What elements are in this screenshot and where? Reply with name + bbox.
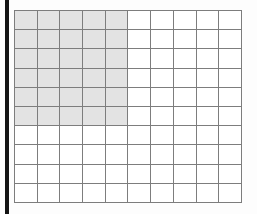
grid-cell-shaded[interactable] [105,49,128,68]
grid-cell-empty[interactable] [173,11,196,30]
grid-cell-shaded[interactable] [37,87,60,106]
grid-cell-shaded[interactable] [60,49,83,68]
grid-cell-empty[interactable] [83,145,106,164]
grid-cell-shaded[interactable] [60,106,83,125]
grid-cell-empty[interactable] [128,87,151,106]
grid-cell-empty[interactable] [60,145,83,164]
grid-cell-empty[interactable] [83,183,106,202]
grid-cell-shaded[interactable] [60,68,83,87]
grid-cell-empty[interactable] [128,183,151,202]
grid-cell-empty[interactable] [151,30,174,49]
grid-cell-empty[interactable] [219,11,242,30]
grid-cell-empty[interactable] [83,126,106,145]
grid-cell-empty[interactable] [173,49,196,68]
grid-cell-empty[interactable] [105,145,128,164]
grid-cell-empty[interactable] [196,87,219,106]
grid-cell-empty[interactable] [15,126,38,145]
grid-cell-shaded[interactable] [83,68,106,87]
grid-cell-empty[interactable] [151,87,174,106]
grid-cell-shaded[interactable] [37,49,60,68]
grid-cell-empty[interactable] [151,68,174,87]
grid-cell-empty[interactable] [173,30,196,49]
grid-cell-shaded[interactable] [105,106,128,125]
grid-cell-shaded[interactable] [60,11,83,30]
grid-cell-empty[interactable] [196,164,219,183]
grid-cell-empty[interactable] [196,106,219,125]
grid-cell-empty[interactable] [219,87,242,106]
grid-cell-empty[interactable] [60,164,83,183]
grid-cell-empty[interactable] [219,106,242,125]
grid-cell-empty[interactable] [15,145,38,164]
grid-cell-empty[interactable] [151,126,174,145]
grid-cell-empty[interactable] [173,106,196,125]
grid-cell-empty[interactable] [219,183,242,202]
grid-cell-empty[interactable] [151,49,174,68]
grid-cell-empty[interactable] [128,11,151,30]
grid-cell-empty[interactable] [196,49,219,68]
grid-cell-empty[interactable] [219,30,242,49]
grid-cell-shaded[interactable] [37,11,60,30]
grid-cell-empty[interactable] [196,126,219,145]
grid-cell-shaded[interactable] [83,49,106,68]
grid-cell-empty[interactable] [37,164,60,183]
grid-cell-empty[interactable] [173,145,196,164]
grid-cell-empty[interactable] [219,126,242,145]
grid-cell-shaded[interactable] [15,68,38,87]
grid-cell-shaded[interactable] [105,87,128,106]
grid-cell-shaded[interactable] [15,106,38,125]
grid-cell-empty[interactable] [151,164,174,183]
grid-cell-shaded[interactable] [37,30,60,49]
grid-cell-empty[interactable] [105,183,128,202]
grid-cell-empty[interactable] [128,30,151,49]
grid-cell-empty[interactable] [151,11,174,30]
grid-cell-empty[interactable] [60,183,83,202]
grid-cell-empty[interactable] [219,164,242,183]
grid-cell-shaded[interactable] [105,11,128,30]
grid-cell-empty[interactable] [83,164,106,183]
grid-cell-empty[interactable] [196,11,219,30]
grid-cell-empty[interactable] [173,126,196,145]
grid-cell-empty[interactable] [196,183,219,202]
grid-cell-shaded[interactable] [15,11,38,30]
grid-cell-empty[interactable] [128,164,151,183]
grid-cell-shaded[interactable] [105,30,128,49]
grid-cell-empty[interactable] [37,126,60,145]
grid-cell-empty[interactable] [128,68,151,87]
grid-cell-empty[interactable] [196,145,219,164]
grid-cell-shaded[interactable] [83,106,106,125]
grid-cell-empty[interactable] [128,126,151,145]
grid-cell-shaded[interactable] [15,49,38,68]
grid-cell-empty[interactable] [128,49,151,68]
grid-cell-shaded[interactable] [105,68,128,87]
grid-cell-shaded[interactable] [83,11,106,30]
grid-cell-shaded[interactable] [15,30,38,49]
grid-cell-empty[interactable] [105,164,128,183]
grid-cell-shaded[interactable] [37,106,60,125]
grid-cell-shaded[interactable] [83,30,106,49]
grid-cell-empty[interactable] [15,183,38,202]
grid-cell-shaded[interactable] [37,68,60,87]
grid-cell-shaded[interactable] [60,87,83,106]
grid-cell-empty[interactable] [219,68,242,87]
grid-cell-empty[interactable] [196,30,219,49]
grid-cell-empty[interactable] [219,145,242,164]
grid-cell-empty[interactable] [37,145,60,164]
grid-cell-empty[interactable] [196,68,219,87]
grid-cell-empty[interactable] [105,126,128,145]
grid-cell-empty[interactable] [219,49,242,68]
grid-cell-empty[interactable] [173,183,196,202]
grid-cell-empty[interactable] [15,164,38,183]
grid-cell-shaded[interactable] [83,87,106,106]
grid-cell-shaded[interactable] [60,30,83,49]
grid-cell-shaded[interactable] [15,87,38,106]
grid-cell-empty[interactable] [60,126,83,145]
grid-cell-empty[interactable] [151,183,174,202]
grid-cell-empty[interactable] [128,145,151,164]
grid-cell-empty[interactable] [151,145,174,164]
grid-cell-empty[interactable] [173,87,196,106]
grid-cell-empty[interactable] [173,68,196,87]
grid-cell-empty[interactable] [151,106,174,125]
grid-cell-empty[interactable] [173,164,196,183]
grid-cell-empty[interactable] [128,106,151,125]
grid-cell-empty[interactable] [37,183,60,202]
